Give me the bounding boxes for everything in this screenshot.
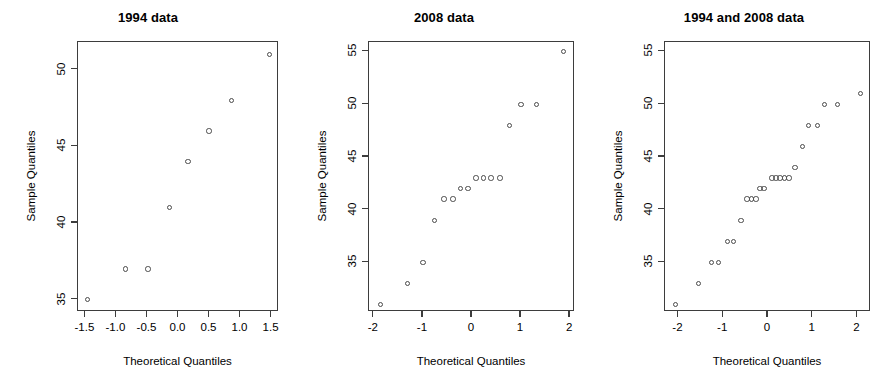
data-point [534, 102, 539, 107]
x-axis-tick-label: -2 [672, 321, 682, 333]
y-axis-tick-label: 50 [346, 97, 358, 110]
x-axis-tick-label: 1.5 [263, 321, 279, 333]
x-axis-tick [766, 311, 767, 317]
x-axis-tick-label: -1.0 [106, 321, 126, 333]
data-point [709, 260, 714, 265]
data-point [206, 128, 211, 133]
data-point [123, 266, 128, 271]
data-point [753, 196, 758, 201]
data-point [696, 281, 701, 286]
y-axis-tick-label: 50 [642, 97, 654, 110]
x-axis-tick-label: -1.5 [75, 321, 95, 333]
y-axis-title: Sample Quantiles [316, 131, 328, 222]
x-axis-title: Theoretical Quantiles [123, 355, 232, 367]
y-axis-tick [362, 103, 368, 104]
x-axis-tick [208, 311, 209, 317]
data-point [761, 186, 766, 191]
x-axis-tick [519, 311, 520, 317]
chart-panel-2: 2008 data-2-10123540455055Theoretical Qu… [296, 0, 592, 388]
data-point [858, 91, 863, 96]
data-point [441, 196, 446, 201]
x-axis-tick-label: 2 [566, 321, 572, 333]
data-point [458, 186, 463, 191]
data-point [800, 144, 805, 149]
y-axis-tick-label: 50 [55, 62, 67, 75]
chart-panel-1: 1994 data-1.5-1.0-0.50.00.51.01.53540455… [0, 0, 296, 388]
x-axis-tick [421, 311, 422, 317]
data-point [518, 102, 523, 107]
data-point [167, 205, 172, 210]
y-axis-tick-label: 35 [346, 255, 358, 268]
qq-plot-figure: 1994 data-1.5-1.0-0.50.00.51.01.53540455… [0, 0, 892, 388]
y-axis-tick [658, 103, 664, 104]
y-axis-title: Sample Quantiles [612, 131, 624, 222]
x-axis-tick-label: -0.5 [137, 321, 157, 333]
x-axis-tick [470, 311, 471, 317]
y-axis-tick-label: 40 [346, 202, 358, 215]
data-point [473, 175, 478, 180]
y-axis-tick-label: 55 [346, 44, 358, 57]
y-axis-tick [71, 145, 77, 146]
data-point [185, 159, 190, 164]
data-point [465, 186, 470, 191]
x-axis-tick [722, 311, 723, 317]
y-axis-tick [658, 261, 664, 262]
y-axis-tick [71, 68, 77, 69]
y-axis-tick [71, 221, 77, 222]
x-axis-tick [270, 311, 271, 317]
data-point [267, 52, 272, 57]
x-axis-tick [372, 311, 373, 317]
y-axis-tick [362, 155, 368, 156]
data-point [792, 165, 797, 170]
panel-title: 1994 and 2008 data [596, 10, 892, 25]
x-axis-tick [146, 311, 147, 317]
x-axis-tick [568, 311, 569, 317]
x-axis-tick [239, 311, 240, 317]
y-axis-tick-label: 35 [55, 292, 67, 305]
panel-title: 1994 data [0, 10, 296, 25]
y-axis-tick [658, 50, 664, 51]
plot-area [368, 41, 574, 311]
data-point [725, 239, 730, 244]
y-axis-tick-label: 40 [55, 216, 67, 229]
y-axis-tick-label: 45 [642, 150, 654, 163]
y-axis-tick [362, 261, 368, 262]
plot-area [77, 41, 278, 311]
y-axis-tick [71, 298, 77, 299]
y-axis-tick [658, 208, 664, 209]
data-point [835, 102, 840, 107]
x-axis-title: Theoretical Quantiles [417, 355, 526, 367]
x-axis-tick [177, 311, 178, 317]
data-point [432, 218, 437, 223]
y-axis-tick [362, 50, 368, 51]
data-point [488, 175, 493, 180]
x-axis-tick-label: 0 [764, 321, 770, 333]
x-axis-tick [677, 311, 678, 317]
data-point [450, 196, 455, 201]
y-axis-tick [362, 208, 368, 209]
x-axis-tick-label: -2 [368, 321, 378, 333]
x-axis-tick [811, 311, 812, 317]
x-axis-tick-label: 0 [468, 321, 474, 333]
x-axis-title: Theoretical Quantiles [713, 355, 822, 367]
y-axis-tick-label: 55 [642, 44, 654, 57]
data-point [716, 260, 721, 265]
y-axis-tick-label: 45 [55, 139, 67, 152]
x-axis-tick [856, 311, 857, 317]
data-point [378, 302, 383, 307]
x-axis-tick-label: -1 [417, 321, 427, 333]
x-axis-tick-label: -1 [717, 321, 727, 333]
data-point [507, 123, 512, 128]
panel-title: 2008 data [296, 10, 592, 25]
data-point [481, 175, 486, 180]
x-axis-tick-label: 1 [517, 321, 523, 333]
data-point [738, 218, 743, 223]
data-point [786, 175, 791, 180]
data-point [806, 123, 811, 128]
x-axis-tick-label: 1.0 [232, 321, 248, 333]
data-point [229, 98, 234, 103]
data-point [822, 102, 827, 107]
data-point [815, 123, 820, 128]
x-axis-tick-label: 1 [809, 321, 815, 333]
x-axis-tick [115, 311, 116, 317]
